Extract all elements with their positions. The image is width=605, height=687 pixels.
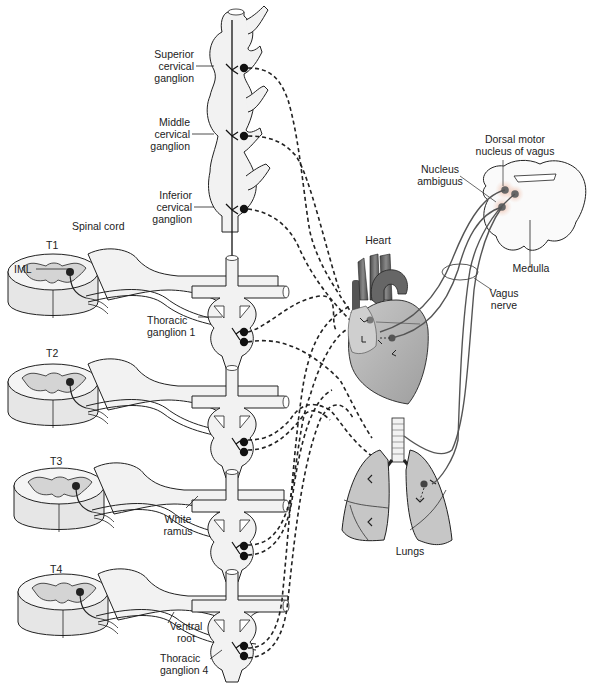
label-heart: Heart: [358, 234, 398, 246]
label-nucleus-ambiguus: Nucleus ambiguus: [410, 163, 470, 187]
label-vagus-nerve: Vagus nerve: [484, 287, 524, 311]
label-t4: T4: [50, 563, 70, 575]
label-t2: T2: [46, 347, 66, 359]
label-iml: IML: [14, 263, 44, 275]
label-middle-cervical-ganglion: Middle cervical ganglion: [124, 116, 190, 152]
label-dorsal-motor-nucleus-of-vagus: Dorsal motor nucleus of vagus: [470, 133, 560, 157]
label-lungs: Lungs: [390, 545, 430, 557]
label-t1: T1: [46, 239, 66, 251]
medulla-illustration: [460, 160, 586, 268]
label-white-ramus: White ramus: [158, 513, 198, 537]
label-spinal-cord: Spinal cord: [72, 220, 152, 232]
label-medulla: Medulla: [506, 262, 556, 274]
diagram-canvas: [0, 0, 605, 687]
label-ventral-root: Ventral root: [164, 620, 208, 644]
label-thoracic-ganglion-1: Thoracic ganglion 1: [147, 314, 207, 338]
label-thoracic-ganglion-4: Thoracic ganglion 4: [160, 652, 220, 676]
label-superior-cervical-ganglion: Superior cervical ganglion: [128, 48, 194, 84]
segment-t4: [18, 569, 289, 682]
label-t3: T3: [50, 455, 70, 467]
